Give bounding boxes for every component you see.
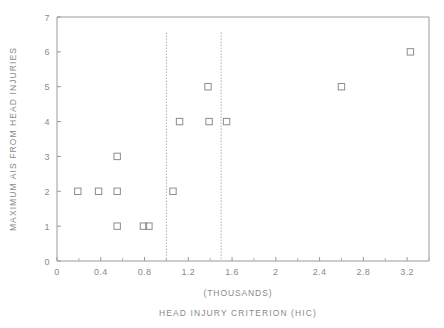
y-tick-label-3: 3: [45, 152, 50, 162]
scatter-chart: 00.40.81.21.622.42.83.2 01234567 (THOUSA…: [0, 0, 444, 328]
x-tick-label-5: 2: [273, 267, 278, 277]
data-point-4: [114, 223, 120, 229]
data-point-1: [95, 188, 101, 194]
y-tick-label-6: 6: [45, 47, 50, 57]
data-point-10: [206, 118, 212, 124]
data-point-8: [176, 118, 182, 124]
x-tick-label-7: 2.8: [356, 267, 370, 277]
y-axis-title: MAXIMUM AIS FROM HEAD INJURIES: [8, 47, 18, 231]
data-point-9: [205, 84, 211, 90]
x-tick-label-2: 0.8: [138, 267, 152, 277]
plot-box-frame: [57, 17, 429, 261]
reference-lines: [166, 33, 221, 261]
x-axis-units-label: (THOUSANDS): [204, 288, 273, 298]
data-point-7: [170, 188, 176, 194]
data-points: [75, 49, 414, 230]
data-point-13: [407, 49, 413, 55]
chart-canvas: 00.40.81.21.622.42.83.2 01234567 (THOUSA…: [0, 0, 444, 328]
y-tick-label-5: 5: [45, 82, 50, 92]
data-point-3: [114, 188, 120, 194]
y-axis-ticks: 01234567: [45, 13, 61, 267]
y-tick-label-4: 4: [45, 117, 50, 127]
x-axis-title: HEAD INJURY CRITERION (HIC): [159, 308, 317, 318]
x-tick-label-8: 3.2: [400, 267, 414, 277]
axis-titles: (THOUSANDS)HEAD INJURY CRITERION (HIC)MA…: [8, 47, 317, 318]
y-tick-label-0: 0: [45, 257, 50, 267]
axis-spines: [57, 17, 429, 261]
y-tick-label-1: 1: [45, 222, 50, 232]
chart-axes: [57, 17, 429, 261]
x-tick-label-3: 1.2: [181, 267, 195, 277]
data-point-0: [75, 188, 81, 194]
y-tick-label-7: 7: [45, 13, 50, 23]
x-axis-ticks: 00.40.81.21.622.42.83.2: [54, 257, 429, 277]
x-tick-label-4: 1.6: [225, 267, 239, 277]
data-point-2: [114, 153, 120, 159]
x-tick-label-6: 2.4: [313, 267, 327, 277]
data-point-12: [338, 84, 344, 90]
x-tick-label-1: 0.4: [94, 267, 108, 277]
y-tick-label-2: 2: [45, 187, 50, 197]
data-point-11: [223, 118, 229, 124]
x-tick-label-0: 0: [54, 267, 59, 277]
